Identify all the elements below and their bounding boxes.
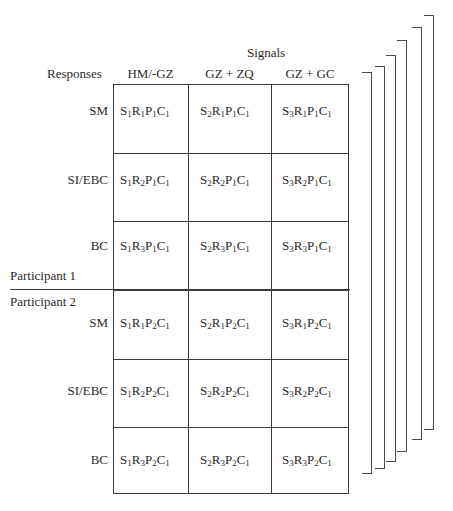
matrix-cell: S1R2P1C1 <box>120 172 170 188</box>
matrix-cell: S3R2P1C1 <box>282 172 332 188</box>
row-divider <box>114 290 348 291</box>
row-label-siebc: SI/EBC <box>8 172 108 188</box>
matrix-cell: S1R3P2C1 <box>120 452 170 468</box>
matrix-cell: S3R1P1C1 <box>282 103 332 119</box>
matrix-cell: S1R1P1C1 <box>120 103 170 119</box>
row-label-sm: SM <box>8 315 108 331</box>
matrix-cell: S3R3P1C1 <box>282 238 332 254</box>
column-header-hm-gz: HM/-GZ <box>113 67 188 81</box>
layer-bracket <box>412 27 422 440</box>
row-label-bc: BC <box>8 452 108 468</box>
matrix-cell: S1R3P1C1 <box>120 238 170 254</box>
matrix-cell: S2R3P1C1 <box>200 238 250 254</box>
participant-2-label: Participant 2 <box>10 294 76 310</box>
signals-label: Signals <box>247 46 285 60</box>
row-divider <box>114 427 348 428</box>
row-divider <box>114 153 348 154</box>
layer-bracket <box>397 40 407 452</box>
participant-divider <box>10 289 350 290</box>
row-label-siebc: SI/EBC <box>8 383 108 399</box>
matrix-cell: S2R3P2C1 <box>200 452 250 468</box>
column-header-gz-zq: GZ + ZQ <box>188 67 271 81</box>
matrix-cell: S2R2P1C1 <box>200 172 250 188</box>
row-label-bc: BC <box>8 238 108 254</box>
matrix-cell: S1R1P2C1 <box>120 315 170 331</box>
responses-label: Responses <box>47 67 102 81</box>
row-divider <box>114 359 348 360</box>
matrix-cell: S2R1P1C1 <box>200 103 250 119</box>
row-divider <box>114 221 348 222</box>
row-label-sm: SM <box>8 103 108 119</box>
matrix-cell: S3R1P2C1 <box>282 315 332 331</box>
matrix-cell: S3R3P2C1 <box>282 452 332 468</box>
matrix-cell: S2R2P2C1 <box>200 383 250 399</box>
column-header-gz-gc: GZ + GC <box>271 67 349 81</box>
layer-bracket <box>386 55 396 462</box>
matrix-cell: S3R2P2C1 <box>282 383 332 399</box>
matrix-cell: S2R1P2C1 <box>200 315 250 331</box>
matrix-cell: S1R2P2C1 <box>120 383 170 399</box>
layer-bracket <box>424 15 434 430</box>
participant-1-label: Participant 1 <box>10 268 76 284</box>
layer-bracket <box>362 72 372 474</box>
layer-bracket <box>375 66 385 469</box>
